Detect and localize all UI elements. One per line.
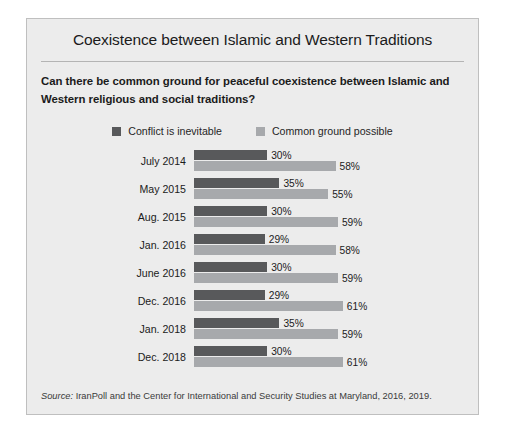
bar-value-label: 59% xyxy=(342,329,362,340)
category-label: Jan. 2018 xyxy=(27,323,194,335)
category-label: July 2014 xyxy=(27,155,194,167)
chart-question: Can there be common ground for peaceful … xyxy=(41,72,455,108)
bar-value-label: 30% xyxy=(271,346,291,357)
chart-legend: Conflict is inevitable Common ground pos… xyxy=(27,125,478,137)
bar-common[interactable]: 59% xyxy=(194,217,362,227)
bar-value-label: 30% xyxy=(271,150,291,161)
bar-common[interactable]: 59% xyxy=(194,273,362,283)
bar-conflict[interactable]: 29% xyxy=(194,290,289,300)
title-divider xyxy=(41,61,464,62)
bar-group: 35%59% xyxy=(194,318,478,340)
bar-value-label: 29% xyxy=(269,234,289,245)
bar-rect xyxy=(194,178,279,188)
title-area: Coexistence between Islamic and Western … xyxy=(27,19,478,61)
bar-group: 29%61% xyxy=(194,290,478,312)
chart-row: Dec. 201629%61% xyxy=(27,287,478,315)
bar-value-label: 35% xyxy=(283,178,303,189)
legend-label-conflict: Conflict is inevitable xyxy=(128,125,222,137)
bar-value-label: 29% xyxy=(269,290,289,301)
bar-group: 30%59% xyxy=(194,206,478,228)
chart-row: Jan. 201629%58% xyxy=(27,231,478,259)
category-label: Dec. 2018 xyxy=(27,351,194,363)
bar-value-label: 55% xyxy=(332,189,352,200)
bar-rect xyxy=(194,273,338,283)
bar-rect xyxy=(194,217,338,227)
category-label: Dec. 2016 xyxy=(27,295,194,307)
bar-group: 29%58% xyxy=(194,234,478,256)
bar-common[interactable]: 61% xyxy=(194,357,367,367)
bar-group: 35%55% xyxy=(194,178,478,200)
bar-rect xyxy=(194,329,338,339)
chart-row: Jan. 201835%59% xyxy=(27,315,478,343)
chart-row: May 201535%55% xyxy=(27,175,478,203)
bar-value-label: 61% xyxy=(347,357,367,368)
bar-conflict[interactable]: 30% xyxy=(194,262,292,272)
bar-common[interactable]: 55% xyxy=(194,189,353,199)
chart-row: Aug. 201530%59% xyxy=(27,203,478,231)
page-title: Coexistence between Islamic and Western … xyxy=(73,31,432,49)
bar-value-label: 61% xyxy=(347,301,367,312)
bar-conflict[interactable]: 35% xyxy=(194,178,304,188)
source-note: Source: IranPoll and the Center for Inte… xyxy=(41,391,432,401)
bar-value-label: 58% xyxy=(340,245,360,256)
bar-rect xyxy=(194,206,267,216)
category-label: June 2016 xyxy=(27,267,194,279)
bar-group: 30%58% xyxy=(194,150,478,172)
category-label: May 2015 xyxy=(27,183,194,195)
bar-value-label: 59% xyxy=(342,273,362,284)
chart-row: June 201630%59% xyxy=(27,259,478,287)
legend-swatch-icon-conflict xyxy=(112,127,121,136)
bar-conflict[interactable]: 30% xyxy=(194,346,292,356)
bar-rect xyxy=(194,357,343,367)
legend-swatch-icon-common xyxy=(256,127,265,136)
bar-common[interactable]: 58% xyxy=(194,161,360,171)
category-label: Jan. 2016 xyxy=(27,239,194,251)
bar-conflict[interactable]: 30% xyxy=(194,206,292,216)
bar-rect xyxy=(194,161,336,171)
legend-item-common[interactable]: Common ground possible xyxy=(256,125,393,137)
bar-group: 30%59% xyxy=(194,262,478,284)
bar-common[interactable]: 58% xyxy=(194,245,360,255)
bar-value-label: 58% xyxy=(340,161,360,172)
bar-common[interactable]: 59% xyxy=(194,329,362,339)
bar-rect xyxy=(194,245,336,255)
legend-item-conflict[interactable]: Conflict is inevitable xyxy=(112,125,222,137)
legend-label-common: Common ground possible xyxy=(272,125,393,137)
bar-value-label: 35% xyxy=(283,318,303,329)
source-label: Source: xyxy=(41,391,73,401)
category-label: Aug. 2015 xyxy=(27,211,194,223)
bar-rect xyxy=(194,290,265,300)
bar-common[interactable]: 61% xyxy=(194,301,367,311)
bar-conflict[interactable]: 29% xyxy=(194,234,289,244)
chart-row: July 201430%58% xyxy=(27,147,478,175)
bar-conflict[interactable]: 35% xyxy=(194,318,304,328)
source-text: IranPoll and the Center for Internationa… xyxy=(73,391,432,401)
bar-rect xyxy=(194,189,328,199)
bar-rect xyxy=(194,301,343,311)
chart-panel: Coexistence between Islamic and Western … xyxy=(26,18,479,415)
bar-rect xyxy=(194,318,279,328)
bar-value-label: 30% xyxy=(271,262,291,273)
bar-group: 30%61% xyxy=(194,346,478,368)
chart-plot-area: July 201430%58%May 201535%55%Aug. 201530… xyxy=(27,147,478,371)
bar-conflict[interactable]: 30% xyxy=(194,150,292,160)
bar-rect xyxy=(194,234,265,244)
bar-rect xyxy=(194,150,267,160)
bar-value-label: 59% xyxy=(342,217,362,228)
bar-value-label: 30% xyxy=(271,206,291,217)
bar-rect xyxy=(194,346,267,356)
page-root: Coexistence between Islamic and Western … xyxy=(0,0,505,434)
bar-rect xyxy=(194,262,267,272)
chart-row: Dec. 201830%61% xyxy=(27,343,478,371)
